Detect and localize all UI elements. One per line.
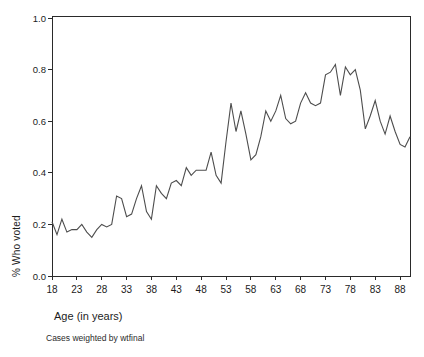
x-tick-label: 53	[220, 284, 232, 295]
line-chart: 0.00.20.40.60.81.01823283338434853586368…	[0, 0, 424, 357]
x-tick-label: 23	[71, 284, 83, 295]
y-tick-label: 0.2	[33, 219, 46, 230]
x-tick-label: 88	[394, 284, 406, 295]
x-tick-label: 28	[96, 284, 108, 295]
x-tick-label: 68	[295, 284, 307, 295]
y-tick-label: 0.4	[33, 167, 46, 178]
x-tick-label: 83	[370, 284, 382, 295]
voted-by-age-line	[52, 64, 410, 237]
x-axis-title: Age (in years)	[54, 310, 122, 322]
x-tick-label: 43	[171, 284, 183, 295]
x-tick-label: 58	[245, 284, 257, 295]
y-tick-label: 0.0	[33, 271, 46, 282]
x-tick-label: 33	[121, 284, 133, 295]
y-tick-label: 0.6	[33, 116, 46, 127]
x-tick-label: 48	[196, 284, 208, 295]
x-tick-label: 78	[345, 284, 357, 295]
y-tick-label: 1.0	[33, 13, 46, 24]
chart-canvas: 0.00.20.40.60.81.01823283338434853586368…	[0, 0, 424, 357]
x-tick-label: 73	[320, 284, 332, 295]
weighting-footnote: Cases weighted by wtfinal	[46, 333, 144, 343]
plot-frame	[52, 16, 410, 276]
x-tick-label: 63	[270, 284, 282, 295]
y-tick-label: 0.8	[33, 64, 46, 75]
x-tick-label: 18	[46, 284, 58, 295]
x-tick-label: 38	[146, 284, 158, 295]
y-axis-title: % Who voted	[11, 215, 22, 277]
